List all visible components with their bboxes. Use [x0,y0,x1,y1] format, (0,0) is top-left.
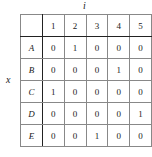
column-header: 2 [64,15,86,37]
column-header: 3 [86,15,108,37]
cell: 0 [108,125,130,147]
cell: 1 [42,81,64,103]
row-header: A [21,37,43,59]
table-row: B 0 0 0 1 0 [21,59,152,81]
cell: 0 [108,37,130,59]
cell: 0 [108,81,130,103]
cell: 0 [86,103,108,125]
cell: 0 [42,37,64,59]
cell: 1 [86,125,108,147]
table-row: E 0 0 1 0 0 [21,125,152,147]
column-axis-label: i [83,0,86,11]
cell: 0 [64,125,86,147]
cell: 0 [130,37,152,59]
cell: 0 [42,103,64,125]
table-row: D 0 0 0 0 1 [21,103,152,125]
cell: 0 [64,59,86,81]
cell: 0 [130,59,152,81]
cell: 1 [64,37,86,59]
table-row: C 1 0 0 0 0 [21,81,152,103]
cell: 0 [42,59,64,81]
cell: 0 [64,81,86,103]
cell: 0 [64,103,86,125]
cell: 0 [130,125,152,147]
cell: 0 [130,81,152,103]
cell: 0 [42,125,64,147]
cell: 1 [108,59,130,81]
column-header: 1 [42,15,64,37]
table-row: A 0 1 0 0 0 [21,37,152,59]
cell: 0 [86,81,108,103]
cell: 0 [86,59,108,81]
row-header: B [21,59,43,81]
row-axis-label: x [6,74,10,85]
header-row: 1 2 3 4 5 [21,15,152,37]
corner-cell [21,15,43,37]
assignment-matrix: 1 2 3 4 5 A 0 1 0 0 0 B 0 0 0 1 0 C 1 0 … [20,14,152,147]
column-header: 5 [130,15,152,37]
row-header: D [21,103,43,125]
cell: 1 [130,103,152,125]
row-header: C [21,81,43,103]
column-header: 4 [108,15,130,37]
row-header: E [21,125,43,147]
cell: 0 [86,37,108,59]
cell: 0 [108,103,130,125]
